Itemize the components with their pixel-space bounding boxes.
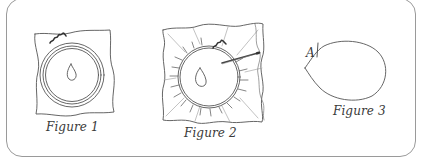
figure-3-caption: Figure 3: [333, 104, 386, 118]
outer-circle-1: [40, 43, 104, 107]
figure-1-caption: Figure 1: [46, 120, 99, 134]
middle-circle-1: [43, 46, 101, 104]
thread-strand: [255, 24, 264, 120]
needle: [222, 51, 261, 64]
stitch-mark-1: [50, 33, 66, 43]
outer-circle-2: [178, 46, 240, 108]
figure-3-drawing: [305, 41, 386, 100]
drop-shape-1: [67, 64, 76, 80]
figure-2-drawing: [162, 23, 264, 123]
inner-circle-2: [180, 48, 238, 106]
fabric-square-2: [162, 23, 263, 123]
point-a-label: A: [306, 46, 315, 60]
figure-1-drawing: [35, 30, 115, 116]
point-a-tick: [317, 43, 318, 57]
inner-circle-1: [46, 49, 99, 102]
drop-shape-2: [196, 68, 207, 86]
figure-2-caption: Figure 2: [184, 126, 237, 140]
